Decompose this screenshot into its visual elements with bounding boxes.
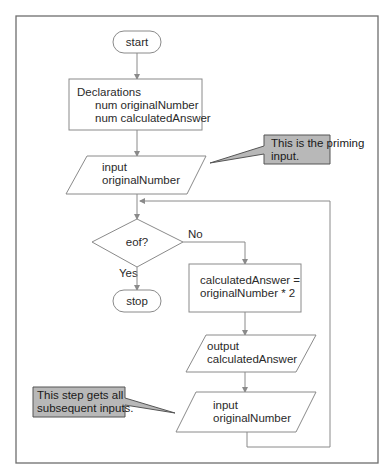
output-line: calculatedAnswer (207, 353, 297, 365)
stop-terminator: stop (113, 290, 161, 312)
loop-input-line: input (213, 399, 239, 411)
callout-subsequent-line: This step gets all (37, 389, 123, 401)
callout-priming-line: This is the priming (271, 137, 364, 149)
declaration-line: num originalNumber (95, 99, 199, 111)
decision-diamond: eof? (92, 219, 183, 267)
loop-input-parallelogram: input originalNumber (176, 392, 316, 432)
declarations-title: Declarations (77, 86, 141, 98)
callout-subsequent-line: subsequent inputs. (37, 402, 134, 414)
process-line: calculatedAnswer = (200, 274, 300, 286)
arrow-no-to-process (183, 242, 245, 264)
declarations-box: Declarations num originalNumber num calc… (69, 79, 211, 130)
output-line: output (207, 340, 240, 352)
loop-input-line: originalNumber (213, 412, 291, 424)
stop-label: stop (126, 295, 148, 307)
output-parallelogram: output calculatedAnswer (186, 335, 316, 372)
callout-subsequent: This step gets all subsequent inputs. (33, 387, 175, 417)
decision-label: eof? (126, 236, 148, 248)
priming-input-parallelogram: input originalNumber (66, 156, 206, 194)
process-line: originalNumber * 2 (200, 287, 295, 299)
flowchart-canvas: start Declarations num originalNumber nu… (0, 0, 389, 476)
process-box: calculatedAnswer = originalNumber * 2 (189, 264, 301, 312)
priming-input-line: input (102, 161, 128, 173)
priming-input-line: originalNumber (102, 174, 180, 186)
callout-priming: This is the priming input. (210, 135, 364, 164)
start-label: start (126, 36, 149, 48)
declaration-line: num calculatedAnswer (95, 112, 211, 124)
decision-no-label: No (188, 228, 203, 240)
decision-yes-label: Yes (119, 267, 138, 279)
callout-priming-line: input. (271, 150, 299, 162)
start-terminator: start (113, 31, 161, 53)
